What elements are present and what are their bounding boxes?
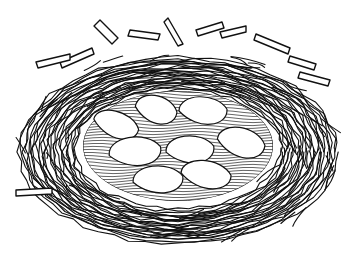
nest-drawing — [0, 0, 347, 275]
nest-illustration: Bird's nest with eggs — [0, 0, 347, 275]
